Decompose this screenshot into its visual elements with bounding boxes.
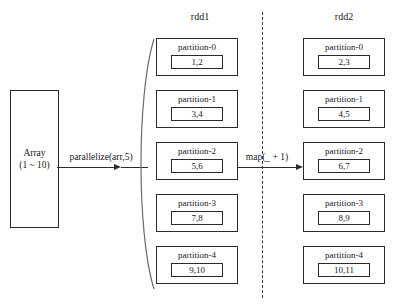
rdd1-grouping-brace bbox=[140, 38, 156, 290]
stage-divider bbox=[262, 12, 263, 298]
partition-value: 7,8 bbox=[171, 211, 223, 225]
partition-box: partition-3 8,9 bbox=[303, 194, 385, 232]
partition-box: partition-1 3,4 bbox=[156, 90, 238, 128]
column-header-rdd1: rdd1 bbox=[160, 11, 240, 23]
partition-label: partition-1 bbox=[178, 94, 216, 105]
map-arrow-line bbox=[238, 167, 296, 168]
partition-value: 1,2 bbox=[171, 55, 223, 69]
partition-label: partition-3 bbox=[178, 198, 216, 209]
parallelize-label: parallelize(arr,5) bbox=[56, 152, 146, 163]
partition-label: partition-2 bbox=[325, 146, 363, 157]
partition-box: partition-1 4,5 bbox=[303, 90, 385, 128]
partition-label: partition-4 bbox=[178, 250, 216, 261]
parallelize-arrow-tail bbox=[121, 167, 148, 168]
source-array-box: Array (1 ~ 10) bbox=[10, 90, 59, 228]
diagram-canvas: rdd1 rdd2 Array (1 ~ 10) parallelize(arr… bbox=[0, 0, 394, 304]
partition-label: partition-1 bbox=[325, 94, 363, 105]
parallelize-arrow-line bbox=[57, 167, 114, 168]
partition-box: partition-2 6,7 bbox=[303, 142, 385, 180]
partition-value: 5,6 bbox=[171, 159, 223, 173]
partition-box: partition-0 1,2 bbox=[156, 38, 238, 76]
partition-box: partition-4 10,11 bbox=[303, 246, 385, 284]
parallelize-arrow-head bbox=[114, 164, 121, 170]
partition-label: partition-4 bbox=[325, 250, 363, 261]
partition-label: partition-3 bbox=[325, 198, 363, 209]
partition-label: partition-0 bbox=[178, 42, 216, 53]
map-label: map(_ + 1) bbox=[236, 152, 298, 163]
partition-label: partition-0 bbox=[325, 42, 363, 53]
partition-value: 9,10 bbox=[171, 263, 223, 277]
partition-value: 3,4 bbox=[171, 107, 223, 121]
partition-box: partition-3 7,8 bbox=[156, 194, 238, 232]
partition-value: 6,7 bbox=[318, 159, 370, 173]
array-range-label: (1 ~ 10) bbox=[19, 159, 49, 171]
partition-box: partition-0 2,3 bbox=[303, 38, 385, 76]
partition-value: 2,3 bbox=[318, 55, 370, 69]
partition-value: 10,11 bbox=[318, 263, 370, 277]
partition-value: 4,5 bbox=[318, 107, 370, 121]
column-header-rdd2: rdd2 bbox=[304, 11, 384, 23]
partition-value: 8,9 bbox=[318, 211, 370, 225]
partition-box: partition-2 5,6 bbox=[156, 142, 238, 180]
partition-box: partition-4 9,10 bbox=[156, 246, 238, 284]
map-arrow-head bbox=[296, 164, 303, 170]
partition-label: partition-2 bbox=[178, 146, 216, 157]
array-name-label: Array bbox=[23, 147, 45, 159]
